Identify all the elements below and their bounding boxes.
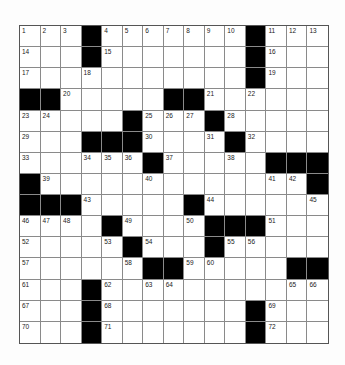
grid-cell[interactable] [41, 322, 62, 343]
grid-cell[interactable] [143, 216, 164, 237]
grid-cell[interactable] [61, 280, 82, 301]
grid-cell[interactable] [205, 174, 226, 195]
grid-cell[interactable] [82, 89, 103, 110]
grid-cell[interactable]: 62 [102, 280, 123, 301]
grid-cell[interactable] [184, 68, 205, 89]
grid-cell[interactable]: 18 [82, 68, 103, 89]
grid-cell[interactable] [287, 68, 308, 89]
grid-cell[interactable] [246, 195, 267, 216]
grid-cell[interactable]: 12 [287, 26, 308, 47]
grid-cell[interactable]: 59 [184, 258, 205, 279]
grid-cell[interactable] [225, 89, 246, 110]
grid-cell[interactable]: 71 [102, 322, 123, 343]
grid-cell[interactable]: 45 [307, 195, 328, 216]
grid-cell[interactable] [287, 47, 308, 68]
grid-cell[interactable] [246, 174, 267, 195]
grid-cell[interactable] [307, 322, 328, 343]
grid-cell[interactable]: 19 [266, 68, 287, 89]
grid-cell[interactable] [123, 47, 144, 68]
grid-cell[interactable] [41, 237, 62, 258]
grid-cell[interactable]: 3 [61, 26, 82, 47]
grid-cell[interactable]: 6 [143, 26, 164, 47]
grid-cell[interactable] [164, 216, 185, 237]
grid-cell[interactable] [61, 47, 82, 68]
grid-cell[interactable]: 1 [20, 26, 41, 47]
grid-cell[interactable] [307, 89, 328, 110]
grid-cell[interactable] [82, 237, 103, 258]
grid-cell[interactable] [287, 132, 308, 153]
grid-cell[interactable] [41, 153, 62, 174]
grid-cell[interactable]: 55 [225, 237, 246, 258]
grid-cell[interactable] [123, 89, 144, 110]
grid-cell[interactable]: 21 [205, 89, 226, 110]
grid-cell[interactable]: 30 [143, 132, 164, 153]
grid-cell[interactable]: 40 [143, 174, 164, 195]
grid-cell[interactable] [184, 47, 205, 68]
grid-cell[interactable]: 15 [102, 47, 123, 68]
grid-cell[interactable] [82, 174, 103, 195]
grid-cell[interactable] [61, 132, 82, 153]
grid-cell[interactable] [307, 216, 328, 237]
grid-cell[interactable] [61, 322, 82, 343]
grid-cell[interactable] [266, 132, 287, 153]
grid-cell[interactable]: 49 [123, 216, 144, 237]
grid-cell[interactable]: 23 [20, 111, 41, 132]
grid-cell[interactable] [225, 195, 246, 216]
grid-cell[interactable]: 46 [20, 216, 41, 237]
grid-cell[interactable]: 36 [123, 153, 144, 174]
grid-cell[interactable]: 11 [266, 26, 287, 47]
grid-cell[interactable]: 60 [205, 258, 226, 279]
grid-cell[interactable] [41, 280, 62, 301]
grid-cell[interactable] [266, 258, 287, 279]
grid-cell[interactable] [164, 322, 185, 343]
grid-cell[interactable]: 29 [20, 132, 41, 153]
grid-cell[interactable]: 63 [143, 280, 164, 301]
grid-cell[interactable] [123, 322, 144, 343]
grid-cell[interactable] [41, 258, 62, 279]
grid-cell[interactable] [184, 237, 205, 258]
grid-cell[interactable] [123, 174, 144, 195]
grid-cell[interactable]: 37 [164, 153, 185, 174]
grid-cell[interactable]: 57 [20, 258, 41, 279]
grid-cell[interactable] [102, 111, 123, 132]
grid-cell[interactable] [205, 47, 226, 68]
grid-cell[interactable]: 22 [246, 89, 267, 110]
grid-cell[interactable]: 10 [225, 26, 246, 47]
grid-cell[interactable] [225, 280, 246, 301]
grid-cell[interactable] [266, 111, 287, 132]
grid-cell[interactable] [164, 195, 185, 216]
grid-cell[interactable] [246, 258, 267, 279]
grid-cell[interactable] [143, 68, 164, 89]
grid-cell[interactable] [287, 322, 308, 343]
grid-cell[interactable] [102, 68, 123, 89]
grid-cell[interactable] [61, 153, 82, 174]
grid-cell[interactable] [307, 301, 328, 322]
grid-cell[interactable] [205, 301, 226, 322]
grid-cell[interactable]: 58 [123, 258, 144, 279]
grid-cell[interactable] [287, 301, 308, 322]
grid-cell[interactable]: 20 [61, 89, 82, 110]
grid-cell[interactable]: 42 [287, 174, 308, 195]
grid-cell[interactable]: 43 [82, 195, 103, 216]
grid-cell[interactable] [266, 89, 287, 110]
grid-cell[interactable] [123, 68, 144, 89]
grid-cell[interactable] [41, 68, 62, 89]
grid-cell[interactable] [102, 258, 123, 279]
grid-cell[interactable]: 25 [143, 111, 164, 132]
grid-cell[interactable] [225, 258, 246, 279]
grid-cell[interactable] [287, 216, 308, 237]
grid-cell[interactable] [164, 301, 185, 322]
grid-cell[interactable]: 35 [102, 153, 123, 174]
grid-cell[interactable]: 50 [184, 216, 205, 237]
grid-cell[interactable] [61, 301, 82, 322]
grid-cell[interactable] [61, 237, 82, 258]
grid-cell[interactable] [184, 301, 205, 322]
grid-cell[interactable]: 5 [123, 26, 144, 47]
grid-cell[interactable] [61, 68, 82, 89]
grid-cell[interactable]: 48 [61, 216, 82, 237]
grid-cell[interactable] [123, 280, 144, 301]
grid-cell[interactable] [205, 280, 226, 301]
grid-cell[interactable]: 65 [287, 280, 308, 301]
grid-cell[interactable]: 4 [102, 26, 123, 47]
grid-cell[interactable] [246, 111, 267, 132]
